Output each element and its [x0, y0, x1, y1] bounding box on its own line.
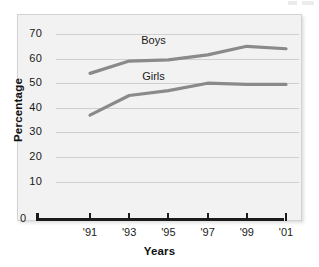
x-axis-tick-label: '91 — [83, 226, 97, 238]
x-axis-tick-label: '95 — [161, 226, 175, 238]
series-line-boys — [90, 46, 286, 73]
x-axis-tick-label: '01 — [279, 226, 293, 238]
x-axis-tick-label: '93 — [122, 226, 136, 238]
x-axis-tick-label: '99 — [240, 226, 254, 238]
series-line-girls — [90, 83, 286, 115]
series-label-girls: Girls — [142, 70, 165, 82]
y-axis-title: Percentage — [12, 65, 24, 155]
x-axis-tick — [246, 213, 248, 221]
x-axis-tick — [207, 213, 209, 221]
x-axis-title: Years — [0, 245, 319, 257]
y-axis-tick-label: 10 — [8, 175, 42, 187]
x-axis-tick-label: '97 — [200, 226, 214, 238]
scan-artifact — [288, 1, 314, 5]
y-axis-zero-label: 0 — [20, 212, 26, 224]
chart-figure: BoysGirls 10203040506070 0 '91'93'95'97'… — [0, 0, 319, 267]
series-label-boys: Boys — [141, 34, 165, 46]
x-axis-tick — [89, 213, 91, 221]
x-axis-tick — [128, 213, 130, 221]
y-axis-tick-label: 70 — [8, 27, 42, 39]
y-axis-tick-label: 60 — [8, 52, 42, 64]
x-axis-tick — [285, 213, 287, 221]
x-axis-tick — [167, 213, 169, 221]
plot-area: BoysGirls — [18, 15, 301, 220]
plot-panel: BoysGirls — [17, 14, 302, 221]
